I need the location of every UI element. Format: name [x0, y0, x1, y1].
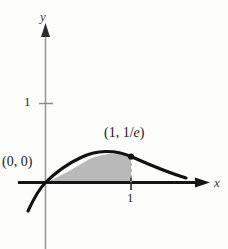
maximum-point-dot [128, 153, 134, 159]
y-axis-arrowhead-icon [41, 23, 50, 37]
y-axis-label: y [40, 10, 46, 23]
figure-container: y x 1 1 (0, 0) (1, 1/e) [0, 0, 228, 249]
origin-point-label: (0, 0) [2, 155, 32, 169]
x-axis-tick-label-1: 1 [127, 191, 134, 204]
x-axis-arrowhead-icon [195, 178, 210, 188]
maximum-point-label-prefix: (1, 1/ [104, 125, 134, 140]
shaded-area-region [46, 154, 132, 183]
x-axis-label: x [214, 176, 220, 189]
maximum-point-label: (1, 1/e) [104, 126, 144, 140]
y-axis-tick-label-1: 1 [24, 95, 31, 108]
maximum-point-label-suffix: ) [140, 125, 145, 140]
